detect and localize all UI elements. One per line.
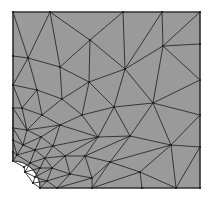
mesh-node xyxy=(12,160,14,162)
mesh-node xyxy=(52,145,54,147)
mesh-node xyxy=(161,11,163,13)
mesh-node xyxy=(59,66,61,68)
mesh-node xyxy=(97,136,99,138)
mesh-node xyxy=(29,162,31,164)
mesh-node xyxy=(44,157,46,159)
mesh-node xyxy=(39,167,41,169)
mesh-node xyxy=(34,149,36,151)
mesh-node xyxy=(91,187,93,189)
mesh-node xyxy=(61,98,63,100)
mesh-node xyxy=(69,173,71,175)
mesh-edge xyxy=(33,183,40,188)
mesh-node xyxy=(32,182,34,184)
mesh-node xyxy=(56,187,58,189)
mesh-node xyxy=(109,161,111,163)
mesh-node xyxy=(27,57,29,59)
mesh-node xyxy=(91,177,93,179)
mesh-node xyxy=(141,187,143,189)
mesh-node xyxy=(175,187,177,189)
mesh-node xyxy=(23,166,25,168)
mesh-node xyxy=(51,167,53,169)
mesh-node xyxy=(12,84,14,86)
mesh-node xyxy=(122,11,124,13)
mesh-node xyxy=(21,107,23,109)
mesh-node xyxy=(199,146,201,148)
mesh-node xyxy=(22,144,24,146)
mesh-node xyxy=(12,139,14,141)
mesh-node xyxy=(49,11,51,13)
mesh-node xyxy=(12,11,14,13)
mesh-node xyxy=(12,151,14,153)
mesh-node xyxy=(199,187,201,189)
mesh-node xyxy=(46,180,48,182)
mesh-node xyxy=(64,155,66,157)
mesh-node xyxy=(41,114,43,116)
mesh-node xyxy=(36,89,38,91)
mesh-node xyxy=(16,154,18,156)
mesh-node xyxy=(34,176,36,178)
mesh-node xyxy=(199,43,201,45)
mesh-node xyxy=(199,79,201,81)
mesh-node xyxy=(40,136,42,138)
mesh-node xyxy=(89,39,91,41)
mesh-node xyxy=(84,155,86,157)
mesh-node xyxy=(139,171,141,173)
mesh-node xyxy=(170,144,172,146)
mesh-node xyxy=(12,127,14,129)
mesh-node xyxy=(88,81,90,83)
mesh-figure xyxy=(0,0,211,200)
mesh-node xyxy=(124,68,126,70)
mesh-node xyxy=(113,106,115,108)
mesh-node xyxy=(12,107,14,109)
mesh-node xyxy=(59,124,61,126)
mesh-node xyxy=(26,129,28,131)
mesh-node xyxy=(81,114,83,116)
mesh-node xyxy=(199,11,201,13)
mesh-node xyxy=(199,114,201,116)
mesh-node xyxy=(152,102,154,104)
mesh-node xyxy=(39,187,41,189)
mesh-node xyxy=(12,55,14,57)
mesh-node xyxy=(162,45,164,47)
mesh-node xyxy=(24,171,26,173)
mesh-node xyxy=(129,135,131,137)
